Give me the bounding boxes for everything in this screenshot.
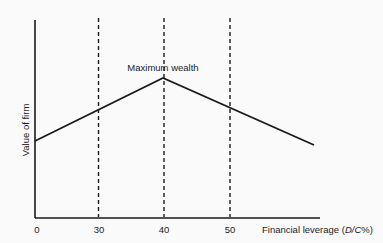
x-axis-label: Financial leverage (D/C%) xyxy=(262,224,373,235)
chart-canvas xyxy=(0,0,383,243)
x-axis-label-suffix: %) xyxy=(361,224,373,235)
x-tick-40: 40 xyxy=(159,224,170,235)
value-of-firm-line xyxy=(35,78,314,145)
x-axis-label-prefix: Financial leverage ( xyxy=(262,224,345,235)
y-axis-label: Value of firm xyxy=(20,104,31,157)
maximum-wealth-annotation: Maximum wealth xyxy=(127,62,198,73)
x-tick-30: 30 xyxy=(94,224,105,235)
x-tick-50: 50 xyxy=(225,224,236,235)
x-tick-0: 0 xyxy=(34,224,39,235)
x-axis-label-italic: D/C xyxy=(345,224,361,235)
